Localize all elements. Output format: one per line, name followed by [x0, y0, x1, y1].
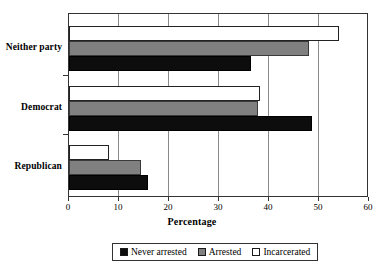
x-axis-tick-50: [318, 197, 319, 201]
legend-swatch-never-arrested-icon: [120, 248, 128, 256]
category-label-republican: Republican: [15, 161, 62, 171]
legend-swatch-arrested-icon: [198, 248, 206, 256]
legend-item-arrested: Arrested: [198, 247, 242, 257]
bar-neither-party-arrested: [69, 41, 309, 56]
legend-label-never-arrested: Never arrested: [131, 247, 187, 257]
x-axis-label-40: 40: [254, 202, 282, 213]
legend-label-incarcerated: Incarcerated: [263, 247, 310, 257]
x-axis-tick-20: [168, 197, 169, 201]
x-axis-label-30: 30: [204, 202, 232, 213]
plot-area: [68, 13, 368, 197]
category-label-neither-party: Neither party: [6, 42, 62, 52]
bar-republican-arrested: [69, 160, 141, 175]
x-axis-label-60: 60: [354, 202, 382, 213]
x-axis-tick-10: [118, 197, 119, 201]
bar-republican-never-arrested: [69, 175, 148, 190]
category-label-democrat: Democrat: [21, 102, 62, 112]
legend-item-incarcerated: Incarcerated: [252, 247, 310, 257]
legend-item-never-arrested: Never arrested: [120, 247, 187, 257]
x-axis-title: Percentage: [0, 216, 384, 227]
bar-chart: Neither party Democrat Republican 0 10 2…: [0, 0, 384, 268]
x-axis-label-0: 0: [54, 202, 82, 213]
x-axis-label-20: 20: [154, 202, 182, 213]
bar-democrat-incarcerated: [69, 86, 260, 101]
bar-democrat-never-arrested: [69, 116, 312, 131]
bar-neither-party-never-arrested: [69, 56, 251, 71]
legend-swatch-incarcerated-icon: [252, 248, 260, 256]
y-axis-tick-upper: [63, 75, 68, 76]
x-axis-tick-0: [68, 197, 69, 201]
gridline-50: [318, 14, 319, 196]
x-axis-tick-40: [268, 197, 269, 201]
x-axis-tick-30: [218, 197, 219, 201]
bar-neither-party-incarcerated: [69, 26, 339, 41]
bar-republican-incarcerated: [69, 145, 109, 160]
x-axis-tick-60: [368, 197, 369, 201]
legend-label-arrested: Arrested: [209, 247, 242, 257]
x-axis-label-50: 50: [304, 202, 332, 213]
bar-democrat-arrested: [69, 101, 258, 116]
x-axis-label-10: 10: [104, 202, 132, 213]
chart-legend: Never arrested Arrested Incarcerated: [112, 243, 318, 261]
y-axis-tick-lower: [63, 134, 68, 135]
